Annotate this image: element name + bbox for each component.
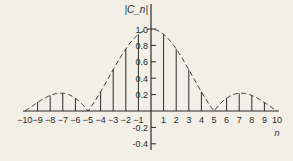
x-tick-label: −6 — [70, 115, 80, 125]
x-tick-label: −5 — [83, 115, 93, 125]
x-tick-label: 3 — [186, 115, 191, 125]
x-tick-label: −10 — [17, 115, 32, 125]
x-axis-label: n — [274, 128, 279, 138]
x-tick-label: 8 — [249, 115, 254, 125]
x-tick-label: 10 — [272, 115, 282, 125]
y-tick-label: -0.4 — [132, 139, 148, 149]
sinc-stem-chart: 1.00.80.60.40.2-0.2-0.4|C_n|−10−9−8−7−6−… — [0, 0, 293, 161]
x-tick-label: −9 — [32, 115, 42, 125]
x-tick-label: 9 — [262, 115, 267, 125]
y-tick-label: 0.4 — [135, 74, 148, 84]
x-tick-label: −4 — [95, 115, 105, 125]
y-tick-label: 0.6 — [135, 57, 148, 67]
x-tick-label: 7 — [237, 115, 242, 125]
x-tick-label: 2 — [174, 115, 179, 125]
x-tick-label: 1 — [161, 115, 166, 125]
x-tick-label: −8 — [45, 115, 55, 125]
y-axis-label: |C_n| — [124, 4, 148, 15]
y-tick-label: 1.0 — [135, 25, 148, 35]
x-tick-label: −3 — [108, 115, 118, 125]
x-tick-label: 6 — [224, 115, 229, 125]
y-tick-label: 0.2 — [135, 90, 148, 100]
chart-canvas: 1.00.80.60.40.2-0.2-0.4|C_n|−10−9−8−7−6−… — [0, 0, 293, 161]
y-tick-label: 0.8 — [135, 41, 148, 51]
x-tick-label: 5 — [211, 115, 216, 125]
x-tick-label: −7 — [58, 115, 68, 125]
x-tick-label: 4 — [199, 115, 204, 125]
x-tick-label: −2 — [121, 115, 131, 125]
x-tick-label: −1 — [133, 115, 143, 125]
